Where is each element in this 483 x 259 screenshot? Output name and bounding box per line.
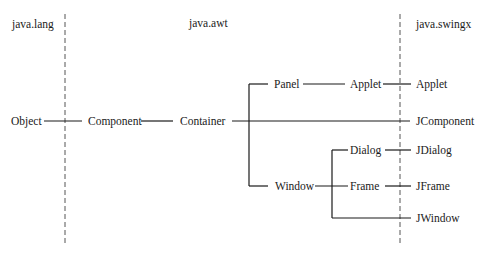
package-java-swingx: java.swingx	[416, 17, 471, 31]
node-panel: Panel	[274, 77, 300, 91]
node-window: Window	[275, 179, 314, 193]
node-frame: Frame	[350, 179, 379, 193]
node-object: Object	[11, 114, 42, 128]
node-jdialog: JDialog	[416, 143, 452, 157]
package-java-lang: java.lang	[12, 17, 54, 31]
class-hierarchy-diagram: java.lang java.awt java.swingx Object Co…	[0, 0, 483, 259]
node-applet-swingx: Applet	[416, 77, 447, 91]
node-container: Container	[180, 114, 225, 128]
node-component: Component	[88, 114, 142, 128]
node-jframe: JFrame	[416, 179, 450, 193]
node-jwindow: JWindow	[416, 211, 460, 225]
node-jcomponent: JComponent	[416, 114, 474, 128]
node-dialog: Dialog	[350, 143, 381, 157]
package-java-awt: java.awt	[189, 16, 228, 30]
connector-lines	[0, 0, 483, 259]
node-applet-awt: Applet	[350, 77, 381, 91]
